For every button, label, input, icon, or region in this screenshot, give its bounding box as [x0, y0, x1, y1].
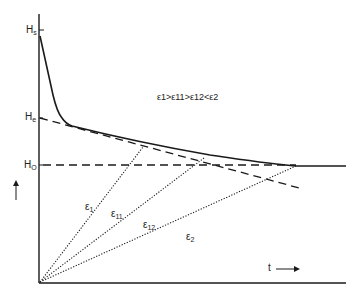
- y-arrow-head: [13, 180, 19, 186]
- ray-e1: [40, 147, 143, 282]
- relation-label: ε1>ε11>ε12<ε2: [157, 93, 218, 102]
- label-hs: Hs: [26, 25, 37, 36]
- t-arrow-head: [294, 266, 300, 272]
- label-e12: ε12: [143, 220, 155, 231]
- ray-e2: [40, 166, 296, 282]
- label-e1: ε1: [85, 202, 93, 213]
- label-h0: HO: [24, 160, 37, 171]
- label-he: He: [25, 112, 36, 123]
- tangent-line: [40, 118, 303, 189]
- label-e11: ε11: [111, 209, 123, 220]
- label-e2: ε2: [186, 232, 194, 243]
- ray-e11: [40, 158, 204, 282]
- diagram-canvas: [0, 0, 357, 293]
- label-t: t: [268, 263, 271, 273]
